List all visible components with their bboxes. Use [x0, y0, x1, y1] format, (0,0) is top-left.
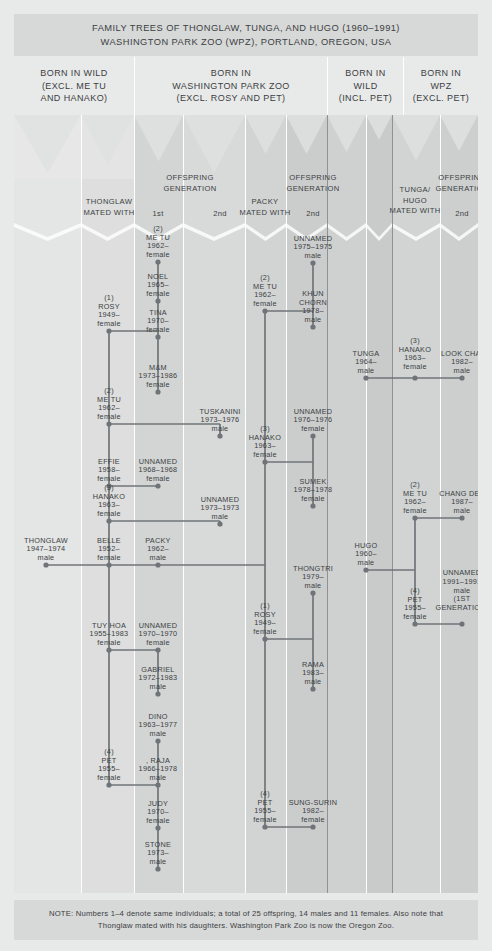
node-line: male	[112, 774, 204, 783]
node-dot	[155, 259, 160, 264]
node-rosy-1-packy: (1)ROSY1949–female	[219, 602, 311, 637]
node-gabriel: GABRIEL1972–1983male	[112, 666, 204, 692]
subheader-line: GENERATION	[145, 184, 235, 195]
node-unnamed-1975: UNNAMED1975–1975male	[267, 235, 359, 261]
node-dot	[363, 567, 368, 572]
subheader-line: OFFSPRING	[145, 173, 235, 184]
node-dot	[459, 515, 464, 520]
node-line: female	[112, 290, 204, 299]
footer-line-1: NOTE: Numbers 1–4 denote same individual…	[49, 908, 443, 920]
node-line: female	[112, 381, 204, 390]
subheader-line: PACKY	[220, 197, 310, 208]
node-unnamed-1991: UNNAMED1991–1991male(1STGENERATION)	[416, 569, 478, 613]
category-header-line: AND HANAKO)	[41, 92, 108, 105]
node-chang-dee: CHANG DEE1987–male	[416, 490, 478, 516]
category-header-line: BORN IN	[211, 67, 251, 80]
footer-note: NOTE: Numbers 1–4 denote same individual…	[14, 900, 478, 940]
node-line: male	[267, 252, 359, 261]
node-line: female	[112, 817, 204, 826]
category-header-band: BORN IN WILD(EXCL. ME TUAND HANAKO)BORN …	[14, 57, 478, 115]
node-unnamed-1973: UNNAMED1973–1973male	[174, 496, 266, 522]
node-line: female	[219, 628, 311, 637]
subheader-line: THONGLAW	[64, 197, 154, 208]
node-line: female	[219, 451, 311, 460]
title-line-1: FAMILY TREES OF THONGLAW, TUNGA, AND HUG…	[92, 21, 400, 35]
node-line: male	[112, 554, 204, 563]
subheader-line: OFFSPRING	[417, 173, 478, 184]
category-header-line: BORN IN WILD	[40, 67, 107, 80]
node-noel: NOEL1965–female	[112, 273, 204, 299]
subheader-line: GENERATION	[417, 184, 478, 195]
category-header-line: (INCL. PET)	[339, 92, 392, 105]
node-line: female	[369, 613, 461, 622]
node-line: female	[267, 425, 359, 434]
node-dot	[310, 590, 315, 595]
category-header-line: (EXCL. ME TU	[42, 80, 106, 93]
node-line: male	[112, 858, 204, 867]
node-dot	[155, 825, 160, 830]
node-rama: RAMA1983–male	[267, 661, 359, 687]
node-dot	[155, 866, 160, 871]
node-line: GENERATION)	[416, 604, 478, 613]
node-line: male	[112, 730, 204, 739]
category-header-line: WILD	[353, 80, 377, 93]
footer-line-2: Thonglaw mated with his daughters. Washi…	[98, 920, 394, 932]
family-tree-diagram: FAMILY TREES OF THONGLAW, TUNGA, AND HUG…	[0, 0, 492, 951]
category-header-line: (EXCL. ROSY AND PET)	[177, 92, 286, 105]
node-dot	[310, 686, 315, 691]
node-dot	[155, 483, 160, 488]
node-sumek: SUMEK1978–1978female	[267, 478, 359, 504]
node-line: female	[112, 251, 204, 260]
tree-body: THONGLAWMATED WITHOFFSPRINGGENERATION1st…	[14, 115, 478, 893]
subheader-line: HUGO	[370, 196, 460, 207]
category-header-line: BORN IN	[345, 67, 385, 80]
node-look-chai: LOOK CHAI1982–male	[416, 350, 478, 376]
subheader-line: OFFSPRING	[268, 173, 358, 184]
node-sung-surin: SUNG-SURIN1982–female	[267, 799, 359, 825]
node-dino: DINO1963–1977male	[112, 713, 204, 739]
node-dot	[155, 298, 160, 303]
node-dot	[155, 334, 160, 339]
node-dot	[310, 260, 315, 265]
title-line-2: WASHINGTON PARK ZOO (WPZ), PORTLAND, ORE…	[101, 35, 392, 49]
node-dot	[459, 621, 464, 626]
category-header-line: WPZ	[430, 80, 451, 93]
subheader-offspring-generation-2: OFFSPRINGGENERATION	[268, 173, 358, 194]
node-dot	[155, 389, 160, 394]
node-packy: PACKY1962–male	[112, 537, 204, 563]
subheader-line: 2nd	[268, 209, 358, 220]
node-metu-offspring: (2)ME TU1962–female	[112, 225, 204, 260]
node-dot	[43, 562, 48, 567]
subheader-offspring-generation-3: OFFSPRINGGENERATION	[417, 173, 478, 194]
node-line: female	[63, 510, 155, 519]
subheader-line: GENERATION	[268, 184, 358, 195]
category-header-born-in-wpz-excl-pet: BORN INWPZ(EXCL. PET)	[403, 57, 478, 115]
node-dot	[459, 375, 464, 380]
node-mm: M&M1973–1986female	[112, 364, 204, 390]
node-judy: JUDY1970–female	[112, 800, 204, 826]
node-line: female	[112, 326, 204, 335]
node-line: male	[267, 678, 359, 687]
node-dot	[310, 433, 315, 438]
node-line: female	[267, 816, 359, 825]
node-line: female	[112, 639, 204, 648]
node-line: male	[112, 683, 204, 692]
diagram-title-band: FAMILY TREES OF THONGLAW, TUNGA, AND HUG…	[14, 14, 478, 56]
node-unnamed-1976: UNNAMED1976–1976female	[267, 408, 359, 434]
node-khun-chorn: KHUNCHORN1978–male	[267, 290, 359, 325]
node-unnamed-1970: UNNAMED1970–1970female	[112, 622, 204, 648]
node-thongtri: THONGTRI1979–male	[267, 565, 359, 591]
node-dot	[310, 824, 315, 829]
node-dot	[412, 375, 417, 380]
node-tina: TINA1970–female	[112, 309, 204, 335]
node-line: male	[416, 507, 478, 516]
subheader-line: 2nd	[417, 209, 478, 220]
node-dot	[155, 691, 160, 696]
node-dot	[155, 782, 160, 787]
subheader-gen-2nd-b: 2nd	[268, 209, 358, 220]
category-header-born-in-wild-incl-pet: BORN INWILD(INCL. PET)	[327, 57, 403, 115]
node-metu-2-thonglaw: (2)ME TU1962–female	[63, 387, 155, 422]
node-line: male	[320, 559, 412, 568]
node-raja: , RAJA1966–1978male	[112, 757, 204, 783]
node-line: female	[112, 475, 204, 484]
